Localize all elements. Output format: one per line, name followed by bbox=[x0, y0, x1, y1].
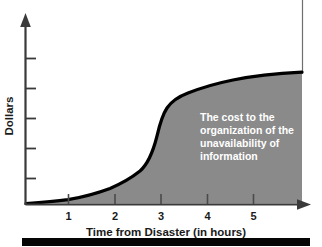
chart-figure: 1 2 3 4 5 Time from Disaster (in hours) … bbox=[0, 0, 322, 247]
x-tick-label-3: 3 bbox=[158, 210, 164, 222]
x-axis-title: Time from Disaster (in hours) bbox=[86, 226, 246, 238]
x-tick-label-5: 5 bbox=[250, 210, 256, 222]
cost-annotation-line-4: information bbox=[200, 150, 258, 162]
y-axis-title: Dollars bbox=[3, 97, 15, 136]
footer-rule bbox=[22, 238, 310, 246]
chart-canvas: 1 2 3 4 5 Time from Disaster (in hours) … bbox=[0, 0, 322, 247]
x-tick-label-4: 4 bbox=[204, 210, 211, 222]
x-tick-label-1: 1 bbox=[65, 210, 71, 222]
x-tick-label-2: 2 bbox=[112, 210, 118, 222]
cost-annotation-line-2: organization of the bbox=[200, 124, 294, 136]
cost-annotation-line-1: The cost to the bbox=[200, 111, 275, 123]
cost-annotation-line-3: unavailability of bbox=[200, 137, 280, 149]
